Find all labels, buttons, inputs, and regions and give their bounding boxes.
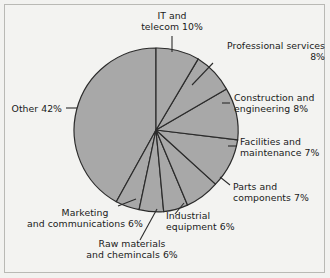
pie-label-raw-materials-and-chemincals-line1: Raw materials: [57, 238, 207, 249]
pie-label-professional-services-line2: 8%: [195, 51, 325, 62]
pie-label-facilities-and-maintenance-line2: maintenance 7%: [240, 147, 330, 158]
pie-label-marketing-and-communications-line2: and communications 6%: [10, 218, 160, 229]
pie-label-industrial-equipment-line2: equipment 6%: [166, 221, 256, 232]
pie-label-it-and-telecom-line1: IT and: [132, 10, 212, 21]
pie-label-professional-services-line1: Professional services: [195, 40, 325, 51]
pie-label-facilities-and-maintenance: Facilities and maintenance 7%: [240, 136, 330, 159]
pie-label-raw-materials-and-chemincals: Raw materials and chemincals 6%: [57, 238, 207, 261]
pie-label-raw-materials-and-chemincals-line2: and chemincals 6%: [57, 249, 207, 260]
pie-label-construction-and-engineering: Construction and engineering 8%: [234, 92, 329, 115]
pie-label-facilities-and-maintenance-line1: Facilities and: [240, 136, 330, 147]
pie-label-professional-services: Professional services 8%: [195, 40, 325, 63]
pie-slices: [74, 48, 238, 212]
pie-label-industrial-equipment-line1: Industrial: [166, 210, 256, 221]
pie-label-it-and-telecom-line2: telecom 10%: [132, 21, 212, 32]
pie-chart-figure: IT and telecom 10% Professional services…: [0, 0, 330, 278]
pie-label-marketing-and-communications: Marketing and communications 6%: [10, 207, 160, 230]
pie-label-it-and-telecom: IT and telecom 10%: [132, 10, 212, 33]
pie-label-other-line1: Other 42%: [0, 103, 62, 114]
pie-label-industrial-equipment: Industrial equipment 6%: [166, 210, 256, 233]
pie-label-parts-and-components: Parts and components 7%: [233, 181, 328, 204]
pie-label-parts-and-components-line1: Parts and: [233, 181, 328, 192]
pie-label-parts-and-components-line2: components 7%: [233, 192, 328, 203]
pie-label-construction-and-engineering-line2: engineering 8%: [234, 103, 329, 114]
pie-label-construction-and-engineering-line1: Construction and: [234, 92, 329, 103]
leader-line-parts-and-components: [220, 177, 230, 185]
pie-label-other: Other 42%: [0, 103, 62, 114]
pie-label-marketing-and-communications-line1: Marketing: [10, 207, 160, 218]
